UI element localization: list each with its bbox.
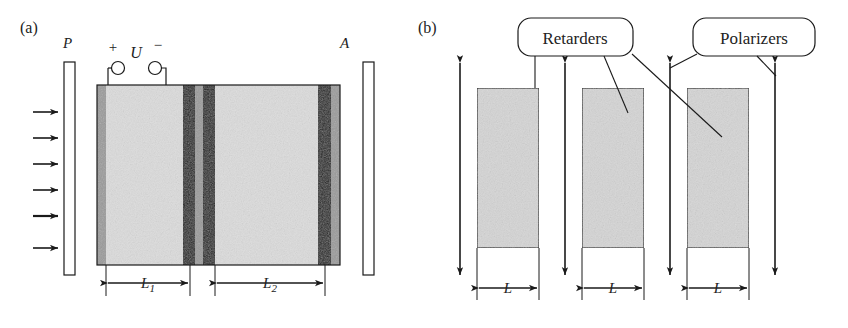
polarizer-label: P (62, 35, 72, 51)
callout-polarizers: Polarizers (670, 18, 815, 76)
modulator-cell (97, 85, 340, 265)
minus-label: − (154, 37, 162, 53)
electrode-dark-2 (203, 85, 215, 265)
crystal-segment-2 (215, 85, 318, 265)
panel-a: (a) P (20, 19, 374, 296)
panel-b: (b) Retarders Polarizers (418, 18, 815, 300)
l-label-1: L (503, 280, 512, 296)
l-label-3: L (713, 280, 722, 296)
l1-label: L1 (140, 275, 155, 294)
terminal-positive (112, 62, 125, 75)
analyzer-bar (363, 62, 374, 275)
l-label-2: L (608, 280, 617, 296)
crystal-segment-1 (106, 85, 183, 265)
electrode-dark-3 (318, 85, 331, 265)
dimension-l-3: L (687, 248, 749, 300)
electrode-dark-1 (183, 85, 195, 265)
polarizer-bar (64, 62, 75, 275)
electrode-gray-mid (195, 85, 203, 265)
incident-beam-arrows (33, 112, 58, 248)
panel-b-label: (b) (418, 19, 437, 37)
panel-a-label: (a) (20, 19, 38, 37)
dimension-l2: L2 (215, 265, 325, 296)
retarder-block-3 (687, 88, 749, 248)
dimension-l-2: L (582, 248, 644, 300)
terminal-negative (149, 62, 162, 75)
l2-label: L2 (262, 275, 277, 294)
dimension-l-1: L (477, 248, 539, 300)
leader-polarizer-1 (670, 54, 697, 68)
retarder-block-2 (582, 88, 644, 248)
dimension-l1: L1 (106, 265, 190, 296)
electrode-gray-right (331, 85, 340, 265)
callout-polarizers-text: Polarizers (720, 29, 788, 48)
retarder-block-1 (477, 88, 539, 248)
callout-retarders-text: Retarders (542, 29, 607, 48)
voltage-source: + − U (108, 37, 166, 85)
electrode-gray-left (97, 85, 106, 265)
figure-svg: (a) P (0, 0, 848, 328)
analyzer-label: A (339, 35, 350, 51)
leader-polarizer-2 (757, 56, 776, 76)
figure-canvas: (a) P (0, 0, 848, 328)
voltage-label: U (130, 44, 143, 61)
plus-label: + (109, 39, 117, 55)
